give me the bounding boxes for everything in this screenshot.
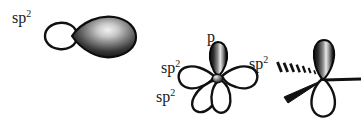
p-orbital-up-2 [314, 40, 334, 80]
panel-sp2-bonding-geometry [278, 40, 361, 117]
panel-sp2-hybridized-atom [179, 42, 258, 113]
sp2-front-lobe-large [72, 17, 136, 58]
bond-hashed-wedge [278, 62, 316, 74]
p-orbital-up [210, 42, 227, 77]
orbital-diagram-figure: sp2 p sp2 sp2 sp2 [0, 0, 361, 121]
orbital-artwork [0, 0, 361, 121]
panel-single-sp2-orbital [45, 17, 136, 58]
sp2-orbital-down [211, 80, 230, 113]
nucleus-dot [212, 74, 222, 82]
bond-plain-line [324, 79, 361, 80]
